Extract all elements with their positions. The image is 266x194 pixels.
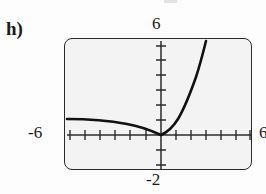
calculator-screen bbox=[64, 38, 252, 170]
scan-artifact bbox=[164, 0, 177, 3]
part-label: h) bbox=[6, 18, 23, 40]
axis-label-left: -6 bbox=[28, 123, 42, 143]
axis-label-right: 6 bbox=[259, 123, 266, 143]
figure-page: h) bbox=[0, 0, 266, 194]
plot-area bbox=[65, 39, 252, 170]
axis-label-top: 6 bbox=[152, 14, 161, 34]
axis-label-bottom: -2 bbox=[146, 170, 160, 190]
curve-path bbox=[67, 41, 206, 135]
